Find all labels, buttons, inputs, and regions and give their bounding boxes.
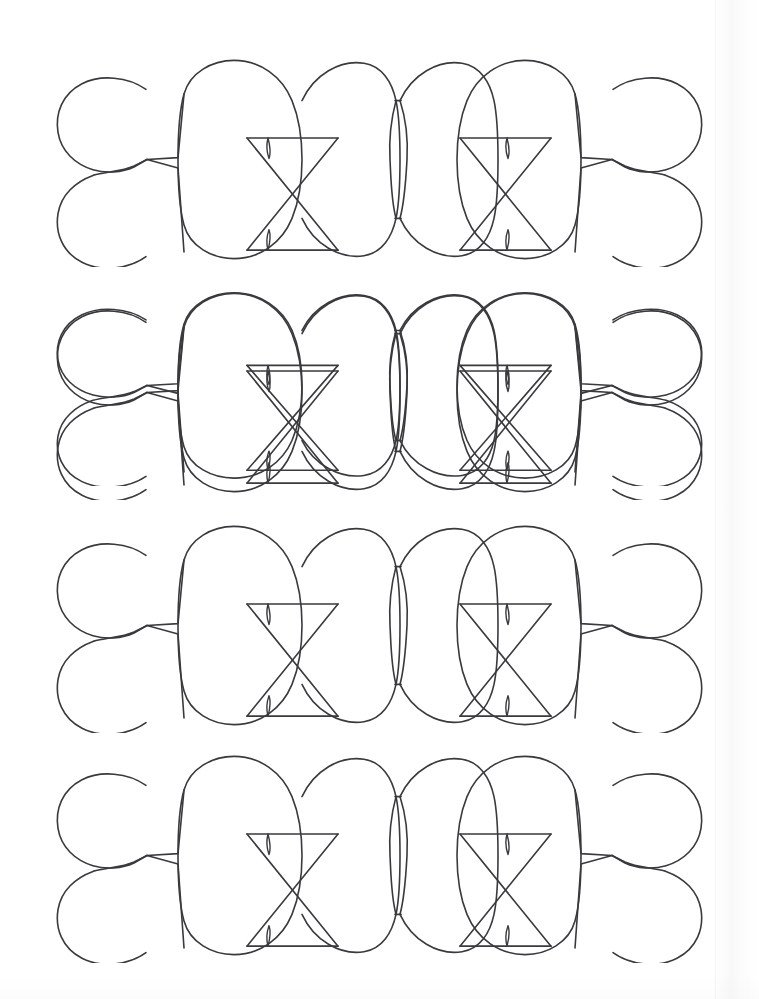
large-oval-2 bbox=[302, 63, 400, 257]
scan-edge-shadow bbox=[0, 973, 759, 999]
bowtie-spindle-top-2 bbox=[506, 604, 509, 625]
right-clover-y-stem-lower bbox=[575, 626, 612, 719]
center-lens-pinch-left bbox=[390, 797, 396, 915]
right-clover-upper-lobe bbox=[612, 544, 702, 638]
pattern-band bbox=[0, 285, 759, 500]
left-clover-upper-lobe bbox=[57, 78, 147, 172]
left-clover-lower-lobe bbox=[57, 626, 147, 734]
left-clover-lower-lobe bbox=[57, 393, 147, 501]
bowtie-spindle-bottom-2 bbox=[506, 696, 509, 717]
bowtie-spindle-top-1 bbox=[267, 138, 270, 159]
large-oval-1 bbox=[178, 526, 302, 724]
left-clover-lower-lobe bbox=[57, 856, 147, 964]
center-lens-pinch-left bbox=[390, 101, 396, 219]
center-lens-pinch-right bbox=[400, 567, 407, 685]
left-clover-lower-lobe bbox=[57, 160, 147, 268]
bowtie-spindle-top-1 bbox=[267, 834, 270, 855]
pattern-band bbox=[0, 52, 759, 267]
right-clover-lower-lobe bbox=[612, 626, 702, 734]
bowtie-spindle-top-2 bbox=[506, 834, 509, 855]
center-lens-pinch-left bbox=[390, 567, 396, 685]
bowtie-spindle-bottom-2 bbox=[506, 230, 509, 251]
large-oval-4 bbox=[457, 293, 581, 491]
right-clover-y-stem-lower bbox=[575, 856, 612, 949]
pattern-band bbox=[0, 748, 759, 963]
large-oval-4 bbox=[457, 60, 581, 258]
right-clover-upper-lobe bbox=[612, 774, 702, 868]
bowtie-spindle-bottom-2 bbox=[506, 463, 509, 484]
large-oval-3 bbox=[400, 63, 498, 257]
large-oval-3 bbox=[400, 529, 498, 723]
right-clover-lower-lobe bbox=[612, 393, 702, 501]
center-lens-pinch-right bbox=[400, 101, 407, 219]
right-clover-y-stem-lower bbox=[575, 160, 612, 253]
large-oval-1 bbox=[178, 756, 302, 954]
left-clover-upper-lobe bbox=[57, 774, 147, 868]
bowtie-spindle-top-1 bbox=[267, 604, 270, 625]
center-lens-pinch-right bbox=[400, 797, 407, 915]
large-oval-1 bbox=[178, 293, 302, 491]
scanned-page bbox=[0, 0, 759, 999]
left-clover-upper-lobe bbox=[57, 311, 147, 405]
right-clover-lower-lobe bbox=[612, 160, 702, 268]
right-clover-y-stem-lower bbox=[575, 393, 612, 486]
right-clover-lower-lobe bbox=[612, 856, 702, 964]
large-oval-4 bbox=[457, 526, 581, 724]
bowtie-spindle-bottom-2 bbox=[506, 926, 509, 947]
large-oval-1 bbox=[178, 60, 302, 258]
right-clover-upper-lobe bbox=[612, 311, 702, 405]
bowtie-spindle-top-2 bbox=[506, 138, 509, 159]
right-clover-upper-lobe bbox=[612, 78, 702, 172]
large-oval-3 bbox=[400, 759, 498, 953]
large-oval-4 bbox=[457, 756, 581, 954]
left-clover-upper-lobe bbox=[57, 544, 147, 638]
large-oval-2 bbox=[302, 529, 400, 723]
large-oval-2 bbox=[302, 759, 400, 953]
pattern-band bbox=[0, 518, 759, 733]
